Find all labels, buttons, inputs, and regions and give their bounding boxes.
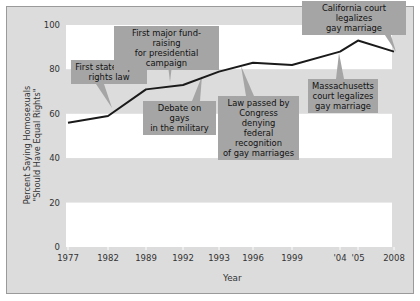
y-axis-label: Percent Saying Homosexuals "Should Have … (22, 75, 42, 215)
annotation-line: of gay marriages (222, 148, 295, 158)
annotation-callout: California court legalizesgay marriage (302, 1, 406, 35)
annotation-line: federal recognition (222, 128, 295, 148)
x-tick-label: '05 (351, 253, 364, 263)
annotation-callout: Law passed byCongress denyingfederal rec… (218, 96, 299, 160)
annotation-line: Massachusetts (312, 81, 374, 91)
annotation-line: Congress denying (222, 108, 295, 128)
x-tick-label: 1977 (57, 253, 79, 263)
annotation-line: First major fund-raising (118, 28, 215, 48)
y-axis-label-line2: "Should Have Equal Rights" (32, 75, 42, 215)
annotation-line: gay marriage (306, 23, 402, 33)
annotation-line: California court legalizes (306, 3, 402, 23)
x-tick-label: '04 (333, 253, 346, 263)
y-tick-label: 40 (49, 153, 60, 163)
x-tick-label: 1982 (97, 253, 119, 263)
annotation-line: gay marriage (312, 101, 374, 111)
x-tick-label: 1989 (135, 253, 157, 263)
plot-band (66, 203, 392, 247)
x-tick-label: 1992 (172, 253, 194, 263)
annotation-line: rights law (75, 72, 143, 82)
annotation-callout: Massachusettscourt legalizesgay marriage (308, 79, 378, 113)
annotation-line: in the military (147, 123, 212, 133)
annotation-line: for presidential campaign (118, 48, 215, 68)
annotation-callout: Debate on gaysin the military (143, 101, 216, 135)
annotation-callout: First major fund-raisingfor presidential… (114, 26, 219, 70)
y-axis-label-line1: Percent Saying Homosexuals (22, 75, 32, 215)
y-tick-label: 100 (44, 20, 60, 30)
y-tick-label: 20 (49, 198, 60, 208)
x-axis-label: Year (223, 273, 242, 283)
x-tick-label: 1993 (208, 253, 230, 263)
annotation-line: Law passed by (222, 98, 295, 108)
plot-band (66, 158, 392, 202)
y-tick-label: 60 (49, 109, 60, 119)
y-tick-label: 80 (49, 64, 60, 74)
x-tick-label: 2008 (383, 253, 405, 263)
x-tick-label: 1996 (242, 253, 264, 263)
annotation-line: Debate on gays (147, 103, 212, 123)
y-tick-label: 0 (55, 242, 60, 252)
x-tick-label: 1999 (281, 253, 303, 263)
annotation-line: court legalizes (312, 91, 374, 101)
